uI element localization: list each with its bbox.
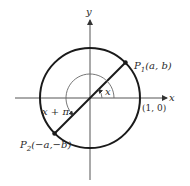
angle-x-label: x xyxy=(105,86,111,97)
point-p2 xyxy=(52,131,56,135)
point-p1 xyxy=(123,60,127,64)
p2-label: P2(−a,−b) xyxy=(19,139,71,153)
angle-arc-x xyxy=(98,90,102,98)
angle-x-plus-pi-label: x + π xyxy=(42,106,69,117)
unit-circle-diagram: y x (1, 0) P1(a, b) P2(−a,−b) x x + π xyxy=(0,0,190,186)
intercept-label: (1, 0) xyxy=(142,103,166,113)
y-axis-label: y xyxy=(85,6,92,17)
p1-label: P1(a, b) xyxy=(133,60,172,74)
x-axis-label: x xyxy=(169,92,175,103)
